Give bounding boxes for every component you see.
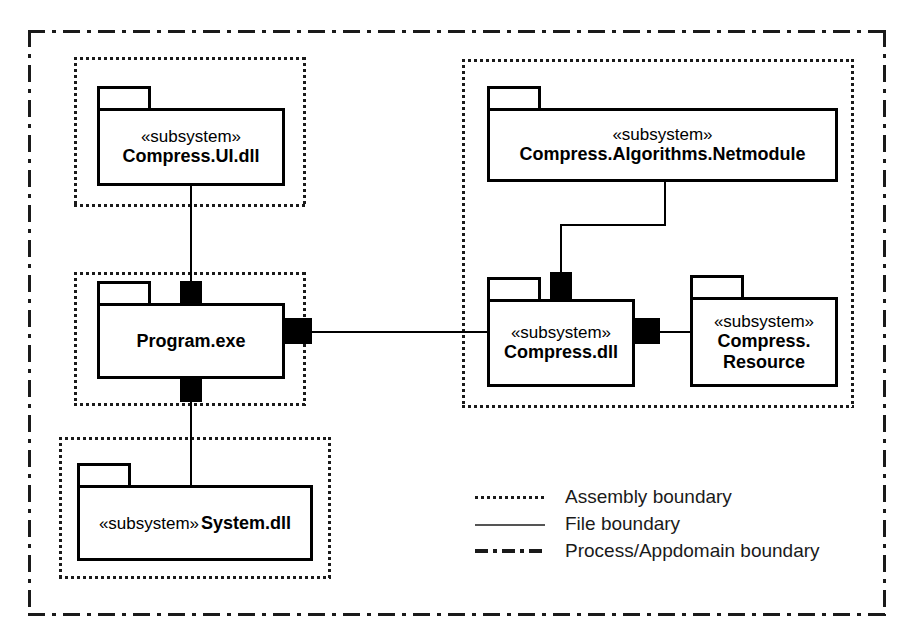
legend-label-process-boundary: Process/Appdomain boundary: [565, 540, 820, 562]
legend-label-assembly-boundary: Assembly boundary: [565, 486, 732, 508]
legend-sample-file-boundary: [475, 524, 545, 526]
legend-sample-process-boundary: [475, 549, 545, 553]
diagram-canvas: «subsystem» Compress.UI.dll Program.exe …: [0, 0, 912, 643]
legend: Assembly boundary File boundary Process/…: [0, 0, 912, 643]
legend-label-file-boundary: File boundary: [565, 513, 680, 535]
legend-sample-assembly-boundary: [475, 496, 545, 499]
